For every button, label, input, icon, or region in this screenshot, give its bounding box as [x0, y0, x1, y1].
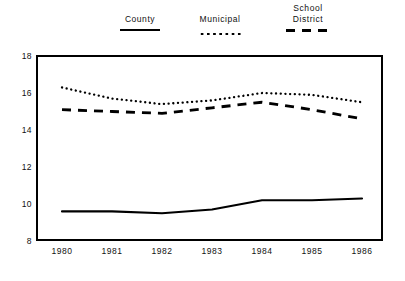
- series-line-county: [62, 198, 362, 213]
- series-line-school-district: [62, 102, 362, 119]
- plot-area: 18 16 14 12 10 8 1980 1981 1982 1983 198…: [0, 0, 405, 281]
- line-chart-figure: County Municipal School District 18 16 1…: [0, 0, 405, 281]
- series-line-municipal: [62, 87, 362, 104]
- series-layer: [0, 0, 405, 281]
